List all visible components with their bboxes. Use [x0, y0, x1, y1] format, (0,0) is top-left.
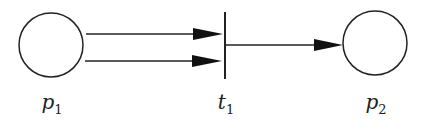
arrowhead-icon: [314, 39, 343, 51]
label-t1: t1: [218, 90, 234, 117]
place-p2: [343, 11, 407, 75]
arc-t1-p2: [225, 39, 343, 51]
label-p1-main: p: [41, 90, 54, 114]
place-p1: [19, 13, 83, 77]
arrowhead-icon: [192, 55, 222, 67]
arc-p1-t1-upper: [86, 28, 223, 40]
label-p2-main: p: [365, 90, 378, 114]
arc-p1-t1-lower: [85, 55, 222, 67]
label-t1-main: t: [218, 90, 226, 114]
label-p2: p2: [365, 90, 386, 117]
label-p1-sub: 1: [54, 102, 62, 117]
label-p2-sub: 2: [378, 102, 386, 117]
arrowhead-icon: [193, 28, 223, 40]
label-t1-sub: 1: [226, 102, 234, 117]
label-p1: p1: [41, 90, 62, 117]
